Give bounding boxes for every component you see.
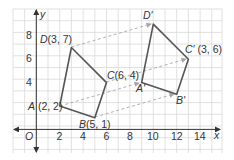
x-tick-label: 8 (127, 130, 133, 142)
point-label-C-prime: C′ (3, 6) (185, 43, 222, 55)
point-label-B: B(5, 1) (79, 118, 111, 130)
point-label-B-prime: B' (176, 94, 186, 106)
grid (13, 9, 222, 153)
y-tick-label: 6 (26, 52, 32, 64)
y-axis-label: y (39, 8, 46, 20)
x-axis-label: x (213, 129, 220, 141)
x-tick-label: 14 (194, 130, 206, 142)
point-label-A-prime: A' (135, 82, 146, 94)
point-label-A: A (2, 2) (27, 100, 62, 112)
x-tick-label: 2 (57, 130, 63, 142)
x-tick-label: 4 (80, 130, 86, 142)
point-label-D: D(3, 7) (40, 33, 72, 45)
y-tick-label: 4 (26, 76, 32, 88)
x-tick-label: 10 (147, 130, 159, 142)
origin-label: O (25, 130, 33, 142)
x-tick-label: 6 (104, 130, 110, 142)
x-tick-label: 12 (171, 130, 183, 142)
y-tick-label: 8 (26, 29, 32, 41)
point-label-C: C(6, 4) (107, 69, 139, 81)
coordinate-plane: y x O 2 4 6 8 10 12 14 4 6 8 A (2, 2) B(… (0, 0, 234, 160)
point-label-D-prime: D' (143, 9, 154, 21)
